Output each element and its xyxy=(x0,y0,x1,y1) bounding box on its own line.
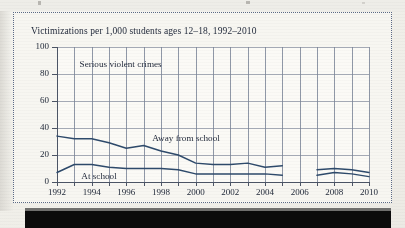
x-tick-1995 xyxy=(109,182,110,186)
annotation-away-from-school: Away from school xyxy=(152,133,220,143)
page-bottom-black-bar xyxy=(25,211,391,228)
x-tick-label-2010: 2010 xyxy=(352,187,386,197)
x-tick-label-2006: 2006 xyxy=(283,187,317,197)
scan-speck-mid xyxy=(246,1,250,4)
x-tick-label-2000: 2000 xyxy=(179,187,213,197)
x-tick-2004 xyxy=(265,182,266,186)
x-tick-1994 xyxy=(92,182,93,186)
y-tick-label-20: 20 xyxy=(23,149,49,159)
series-line-away-from-school-seg1 xyxy=(317,169,369,173)
scan-speck-left xyxy=(38,1,41,5)
y-tick-label-40: 40 xyxy=(23,122,49,132)
y-tick-label-0: 0 xyxy=(23,176,49,186)
x-tick-2007 xyxy=(317,182,318,186)
plot-area: 020406080100 199219941996199820002002200… xyxy=(57,47,369,182)
x-tick-1998 xyxy=(161,182,162,186)
x-tick-2006 xyxy=(300,182,301,186)
x-tick-2008 xyxy=(334,182,335,186)
scan-top-strip xyxy=(0,0,405,11)
x-tick-1999 xyxy=(178,182,179,186)
x-tick-label-2004: 2004 xyxy=(248,187,282,197)
line-chart: Victimizations per 1,000 students ages 1… xyxy=(13,12,392,203)
scan-speck-right xyxy=(362,2,365,4)
x-tick-label-2008: 2008 xyxy=(317,187,351,197)
y-tick-label-100: 100 xyxy=(23,41,49,51)
x-tick-label-2002: 2002 xyxy=(213,187,247,197)
x-tick-1993 xyxy=(74,182,75,186)
x-tick-2001 xyxy=(213,182,214,186)
x-tick-2005 xyxy=(282,182,283,186)
x-tick-1996 xyxy=(126,182,127,186)
x-tick-2010 xyxy=(369,182,370,186)
x-tick-2009 xyxy=(352,182,353,186)
chart-title: Victimizations per 1,000 students ages 1… xyxy=(31,26,257,36)
x-tick-1997 xyxy=(144,182,145,186)
x-tick-2000 xyxy=(196,182,197,186)
x-tick-2002 xyxy=(230,182,231,186)
y-tick-label-60: 60 xyxy=(23,95,49,105)
gridline-x-2010 xyxy=(369,47,370,182)
x-tick-label-1992: 1992 xyxy=(40,187,74,197)
series-line-at-school-seg1 xyxy=(317,173,369,177)
annotation-at-school: At school xyxy=(81,171,116,181)
annotation-serious-violent-crimes: Serious violent crimes xyxy=(80,59,162,69)
x-tick-2003 xyxy=(248,182,249,186)
scan-edge-shadow xyxy=(0,11,14,211)
x-tick-label-1996: 1996 xyxy=(109,187,143,197)
x-tick-label-1994: 1994 xyxy=(75,187,109,197)
x-tick-1992 xyxy=(57,182,58,186)
y-tick-label-80: 80 xyxy=(23,68,49,78)
x-tick-label-1998: 1998 xyxy=(144,187,178,197)
scanned-page: Victimizations per 1,000 students ages 1… xyxy=(0,0,405,228)
